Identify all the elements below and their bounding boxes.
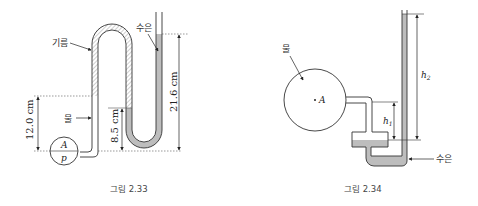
figure-caption-2-34: 그림 2.34 xyxy=(344,184,382,194)
reference-lines-2 xyxy=(372,14,424,140)
dim-8-5cm-label: 8.5 cm xyxy=(109,108,120,143)
point-a-dot xyxy=(314,99,316,101)
oil-pointer xyxy=(70,43,91,50)
dim-h2-label: h2 xyxy=(421,70,431,81)
water-label: 물 xyxy=(64,114,72,124)
water-label-2: 물 xyxy=(282,44,290,54)
mercury-fill xyxy=(352,14,407,166)
figure-caption-2-33: 그림 2.33 xyxy=(110,184,148,194)
oil-label: 기름 xyxy=(52,38,68,48)
figure-2-34: A h1 h2 물 수은 그림 2.34 xyxy=(282,10,452,194)
diagram-canvas: A p 12.0 cm 8.5 cm 21.6 cm 기름 물 수은 그림 2.… xyxy=(0,0,478,206)
mercury-label: 수은 xyxy=(136,23,152,33)
dim-12cm-label: 12.0 cm xyxy=(24,99,35,140)
mercury-label-2: 수은 xyxy=(436,154,452,164)
dim-h1-label: h1 xyxy=(383,116,393,127)
bulb-a: A p xyxy=(50,137,78,165)
point-a-label: A xyxy=(60,140,68,150)
figure-2-33: A p 12.0 cm 8.5 cm 21.6 cm 기름 물 수은 그림 2.… xyxy=(24,12,188,194)
tube-outline xyxy=(80,12,162,157)
dim-21-6cm-label: 21.6 cm xyxy=(168,71,179,112)
pressure-p-label: p xyxy=(61,153,67,163)
point-a-label-2: A xyxy=(318,95,326,105)
